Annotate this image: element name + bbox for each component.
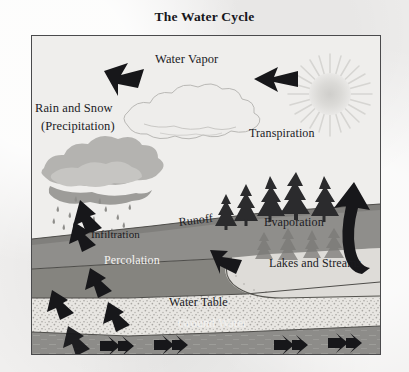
label-ground-water: Ground Water xyxy=(178,317,247,330)
label-transpiration: Transpiration xyxy=(249,127,315,140)
label-percolation: Percolation xyxy=(104,254,160,267)
label-water-table: Water Table xyxy=(169,296,228,309)
label-precipitation: (Precipitation) xyxy=(41,119,115,133)
label-rain-and-snow: Rain and Snow xyxy=(35,101,113,115)
water-cycle-diagram-page: The Water Cycle xyxy=(0,0,409,372)
label-infiltration: Infiltration xyxy=(91,228,140,240)
page-title: The Water Cycle xyxy=(0,9,409,25)
label-evaporation: Evaporation xyxy=(264,216,324,229)
label-lakes-and-streams: Lakes and Streams xyxy=(269,257,361,270)
label-water-vapor: Water Vapor xyxy=(155,52,218,66)
